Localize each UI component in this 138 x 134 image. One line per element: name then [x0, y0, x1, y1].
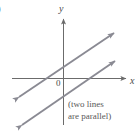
- parallel-line-upper: [19, 33, 114, 97]
- figure-caption-line-2: are parallel): [68, 111, 111, 123]
- figure-caption: (two lines are parallel): [68, 99, 111, 122]
- figure-caption-line-1: (two lines: [68, 99, 111, 111]
- origin-label: 0: [56, 79, 61, 88]
- x-axis-label: x: [130, 76, 134, 86]
- parallel-lines-figure: ) y x 0 (two lines are parallel): [0, 0, 138, 134]
- y-axis-label: y: [59, 4, 63, 14]
